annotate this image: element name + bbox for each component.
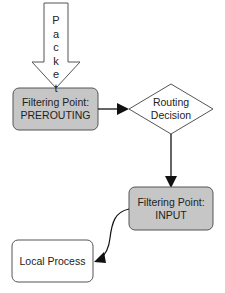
prerouting-label: Filtering Point: PREROUTING	[13, 88, 98, 130]
arrowhead-right-icon	[117, 103, 129, 115]
input-label: Filtering Point: INPUT	[129, 187, 213, 230]
local-process-label: Local Process	[12, 240, 93, 282]
packet-letter: e	[50, 68, 62, 82]
packet-letter: P	[50, 14, 62, 28]
prerouting-line1: Filtering Point:	[22, 96, 89, 109]
packet-letter: a	[50, 28, 62, 42]
local-line1: Local Process	[20, 255, 86, 268]
routing-line2: Decision	[151, 109, 191, 122]
input-line2: INPUT	[155, 209, 187, 222]
arrowhead-left-icon	[94, 252, 106, 263]
routing-line1: Routing	[153, 96, 189, 109]
prerouting-line2: PREROUTING	[20, 109, 90, 122]
packet-letter: c	[50, 41, 62, 55]
input-line1: Filtering Point:	[137, 196, 204, 209]
packet-label: P a c k e t	[50, 14, 62, 95]
routing-label: Routing Decision	[139, 92, 203, 126]
packet-letter: k	[50, 55, 62, 69]
